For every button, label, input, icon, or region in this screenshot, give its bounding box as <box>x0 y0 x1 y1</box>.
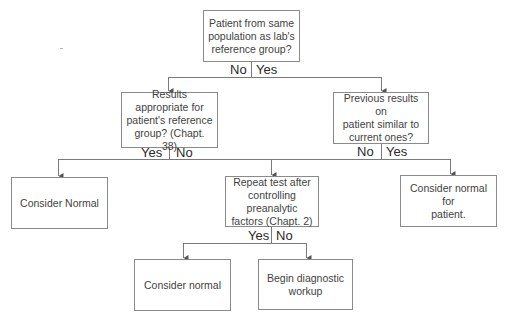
scan-artifact <box>60 48 63 49</box>
node-repeat-test: Repeat test after controlling preanalyti… <box>225 176 319 227</box>
branch-label-yes: Yes <box>248 229 269 243</box>
branch-label-no: No <box>276 229 293 243</box>
branch-label-yes: Yes <box>256 63 277 77</box>
node-consider-normal-for-patient: Consider normal for patient. <box>400 175 497 227</box>
branch-label-no: No <box>176 146 193 160</box>
node-results-appropriate-question: Results appropriate for patient's refere… <box>121 92 218 148</box>
branch-label-no: No <box>357 145 374 159</box>
node-consider-normal: Consider Normal <box>11 177 108 229</box>
node-patient-population-question: Patient from same population as lab's re… <box>203 10 300 62</box>
branch-label-no: No <box>230 63 247 77</box>
node-begin-diagnostic-workup: Begin diagnostic workup <box>258 259 353 310</box>
branch-label-yes: Yes <box>141 146 162 160</box>
node-consider-normal-final: Consider normal <box>134 259 231 311</box>
branch-label-yes: Yes <box>386 145 407 159</box>
node-previous-results-question: Previous results on patient similar to c… <box>333 92 429 144</box>
